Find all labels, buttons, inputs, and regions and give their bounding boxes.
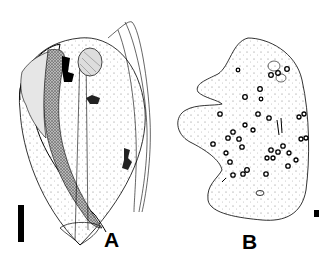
figure-drawing xyxy=(0,0,333,258)
panel-b-cell xyxy=(178,38,309,220)
panel-label-b: B xyxy=(242,231,257,252)
scale-bar-a xyxy=(18,205,24,242)
panel-a-cell xyxy=(19,22,150,245)
panel-label-a: A xyxy=(104,229,119,250)
scale-bar-b xyxy=(314,210,319,217)
